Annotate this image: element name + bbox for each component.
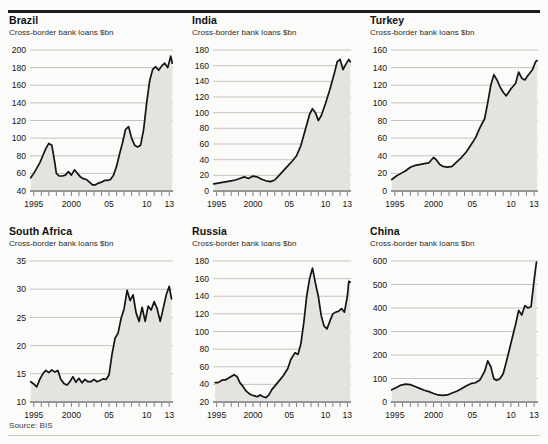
x-axis-tick-label: 13: [164, 410, 174, 420]
bottom-divider: [8, 435, 540, 436]
infographic-page: Brazil Cross-border bank loans $bn 40608…: [0, 0, 548, 444]
x-axis-tick-label: 10: [506, 410, 516, 420]
x-axis-tick-label: 05: [467, 410, 477, 420]
chart-turkey: 02040608010012014016019952000051013: [361, 42, 548, 217]
x-axis-tick-label: 1995: [385, 410, 404, 420]
y-axis-tick-label: 400: [373, 303, 388, 313]
chart-grid: Brazil Cross-border bank loans $bn 40608…: [0, 14, 548, 433]
y-axis-tick-label: 100: [195, 327, 210, 337]
panel-india: India Cross-border bank loans $bn 020406…: [183, 14, 361, 225]
x-axis-tick-label: 1995: [207, 199, 226, 209]
y-axis-tick-label: 140: [12, 98, 27, 108]
y-axis-tick-label: 100: [12, 133, 27, 143]
y-axis-tick-label: 60: [16, 168, 26, 178]
y-axis-tick-label: 40: [16, 186, 26, 196]
y-axis-tick-label: 140: [195, 76, 210, 86]
x-axis-tick-label: 10: [321, 410, 331, 420]
panel-title: China: [370, 225, 548, 237]
y-axis-tick-label: 20: [199, 397, 209, 407]
y-axis-tick-label: 500: [373, 280, 388, 290]
chart-svg-india: 02040608010012014016018019952000051013: [183, 42, 361, 217]
y-axis-tick-label: 100: [195, 108, 210, 118]
x-axis-tick-label: 10: [142, 410, 152, 420]
x-axis-tick-label: 13: [164, 199, 174, 209]
x-axis-tick-label: 2000: [62, 199, 81, 209]
y-axis-tick-label: 160: [195, 61, 210, 71]
x-axis-tick-label: 13: [343, 410, 353, 420]
x-axis-tick-label: 1995: [24, 199, 43, 209]
chart-svg-brazil: 40608010012014016018020019952000051013: [0, 42, 183, 217]
x-axis-tick-label: 13: [529, 199, 539, 209]
y-axis-tick-label: 600: [373, 256, 388, 266]
chart-svg-russia: 2040608010012014016018019952000051013: [183, 253, 361, 428]
top-divider: [8, 10, 540, 13]
x-axis-tick-label: 05: [284, 410, 294, 420]
y-axis-tick-label: 60: [199, 139, 209, 149]
y-axis-tick-label: 120: [195, 92, 210, 102]
chart-brazil: 40608010012014016018020019952000051013: [0, 42, 183, 217]
x-axis-tick-label: 05: [104, 410, 114, 420]
y-axis-tick-label: 35: [16, 256, 26, 266]
y-axis-tick-label: 40: [377, 151, 387, 161]
x-axis-tick-label: 10: [506, 199, 516, 209]
y-axis-tick-label: 0: [204, 186, 209, 196]
series-area: [215, 268, 350, 402]
y-axis-tick-label: 180: [195, 256, 210, 266]
x-axis-tick-label: 05: [467, 199, 477, 209]
x-axis-tick-label: 10: [142, 199, 152, 209]
y-axis-tick-label: 180: [195, 45, 210, 55]
x-axis-tick-label: 13: [343, 199, 353, 209]
y-axis-tick-label: 160: [195, 274, 210, 284]
source-note: Source: BIS: [9, 421, 53, 430]
y-axis-tick-label: 40: [199, 155, 209, 165]
y-axis-tick-label: 0: [382, 397, 387, 407]
chart-svg-turkey: 02040608010012014016019952000051013: [361, 42, 548, 217]
panel-subtitle: Cross-border bank loans $bn: [192, 238, 361, 249]
y-axis-tick-label: 40: [199, 379, 209, 389]
panel-title: India: [192, 14, 361, 26]
panel-title: Turkey: [370, 14, 548, 26]
y-axis-tick-label: 120: [12, 116, 27, 126]
panel-subtitle: Cross-border bank loans $bn: [9, 238, 183, 249]
panel-brazil: Brazil Cross-border bank loans $bn 40608…: [0, 14, 183, 225]
panel-title: Brazil: [9, 14, 183, 26]
y-axis-tick-label: 30: [16, 284, 26, 294]
series-area: [392, 262, 537, 402]
x-axis-tick-label: 2000: [243, 199, 262, 209]
chart-svg-china: 010020030040050060019952000051013: [361, 253, 548, 428]
chart-svg-south-africa: 10152025303519952000051013: [0, 253, 183, 428]
y-axis-tick-label: 200: [373, 350, 388, 360]
chart-russia: 2040608010012014016018019952000051013: [183, 253, 361, 428]
y-axis-tick-label: 25: [16, 313, 26, 323]
y-axis-tick-label: 15: [16, 369, 26, 379]
x-axis-tick-label: 13: [529, 410, 539, 420]
y-axis-tick-label: 20: [199, 170, 209, 180]
panel-subtitle: Cross-border bank loans $bn: [9, 27, 183, 38]
y-axis-tick-label: 140: [373, 63, 388, 73]
y-axis-tick-label: 60: [377, 133, 387, 143]
x-axis-tick-label: 2000: [243, 410, 262, 420]
panel-title: Russia: [192, 225, 361, 237]
panel-china: China Cross-border bank loans $bn 010020…: [361, 225, 548, 433]
chart-india: 02040608010012014016018019952000051013: [183, 42, 361, 217]
x-axis-tick-label: 2000: [424, 199, 443, 209]
x-axis-tick-label: 2000: [62, 410, 81, 420]
panel-subtitle: Cross-border bank loans $bn: [370, 27, 548, 38]
panel-south-africa: South Africa Cross-border bank loans $bn…: [0, 225, 183, 433]
y-axis-tick-label: 120: [195, 309, 210, 319]
x-axis-tick-label: 1995: [385, 199, 404, 209]
panel-subtitle: Cross-border bank loans $bn: [370, 238, 548, 249]
series-area: [31, 286, 172, 402]
x-axis-tick-label: 2000: [424, 410, 443, 420]
y-axis-tick-label: 160: [373, 45, 388, 55]
y-axis-tick-label: 0: [382, 186, 387, 196]
y-axis-tick-label: 60: [199, 362, 209, 372]
y-axis-tick-label: 300: [373, 327, 388, 337]
y-axis-tick-label: 10: [16, 397, 26, 407]
x-axis-tick-label: 10: [321, 199, 331, 209]
panel-russia: Russia Cross-border bank loans $bn 20406…: [183, 225, 361, 433]
y-axis-tick-label: 80: [16, 151, 26, 161]
y-axis-tick-label: 80: [199, 344, 209, 354]
y-axis-tick-label: 20: [16, 341, 26, 351]
y-axis-tick-label: 120: [373, 80, 388, 90]
